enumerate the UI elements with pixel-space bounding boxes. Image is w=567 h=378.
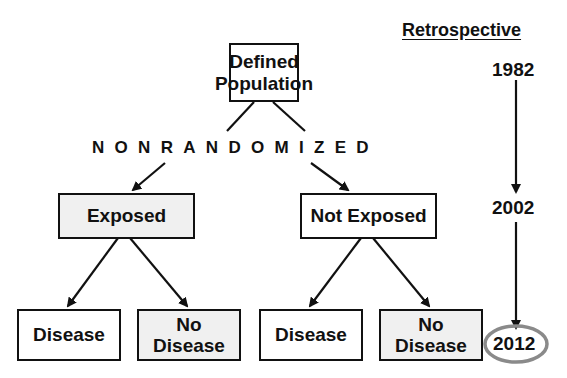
nonrandomized-label: NONRANDOMIZED (92, 138, 379, 158)
exposed-no-disease-box: No Disease (137, 309, 241, 361)
exposed-box: Exposed (58, 193, 195, 239)
exposed-no-disease-line2: Disease (153, 335, 225, 356)
exposed-disease-label: Disease (33, 324, 105, 345)
year-1982: 1982 (492, 59, 534, 81)
defined-population-line1: Defined (229, 51, 299, 72)
not-exposed-no-disease-box: No Disease (379, 309, 483, 361)
not-exposed-no-disease-line1: No (418, 314, 443, 335)
not-exposed-disease-box: Disease (259, 309, 363, 361)
year-2012: 2012 (493, 333, 535, 355)
not-exposed-box: Not Exposed (300, 193, 437, 239)
not-exposed-disease-label: Disease (275, 324, 347, 345)
defined-population-line2: Population (215, 73, 313, 94)
exposed-no-disease-line1: No (176, 314, 201, 335)
not-exposed-no-disease-line2: Disease (395, 335, 467, 356)
defined-population-box: Defined Population (229, 43, 299, 102)
exposed-label: Exposed (87, 205, 166, 226)
exposed-disease-box: Disease (17, 309, 121, 361)
not-exposed-label: Not Exposed (310, 205, 426, 226)
year-2002: 2002 (492, 197, 534, 219)
retrospective-title: Retrospective (402, 20, 521, 41)
